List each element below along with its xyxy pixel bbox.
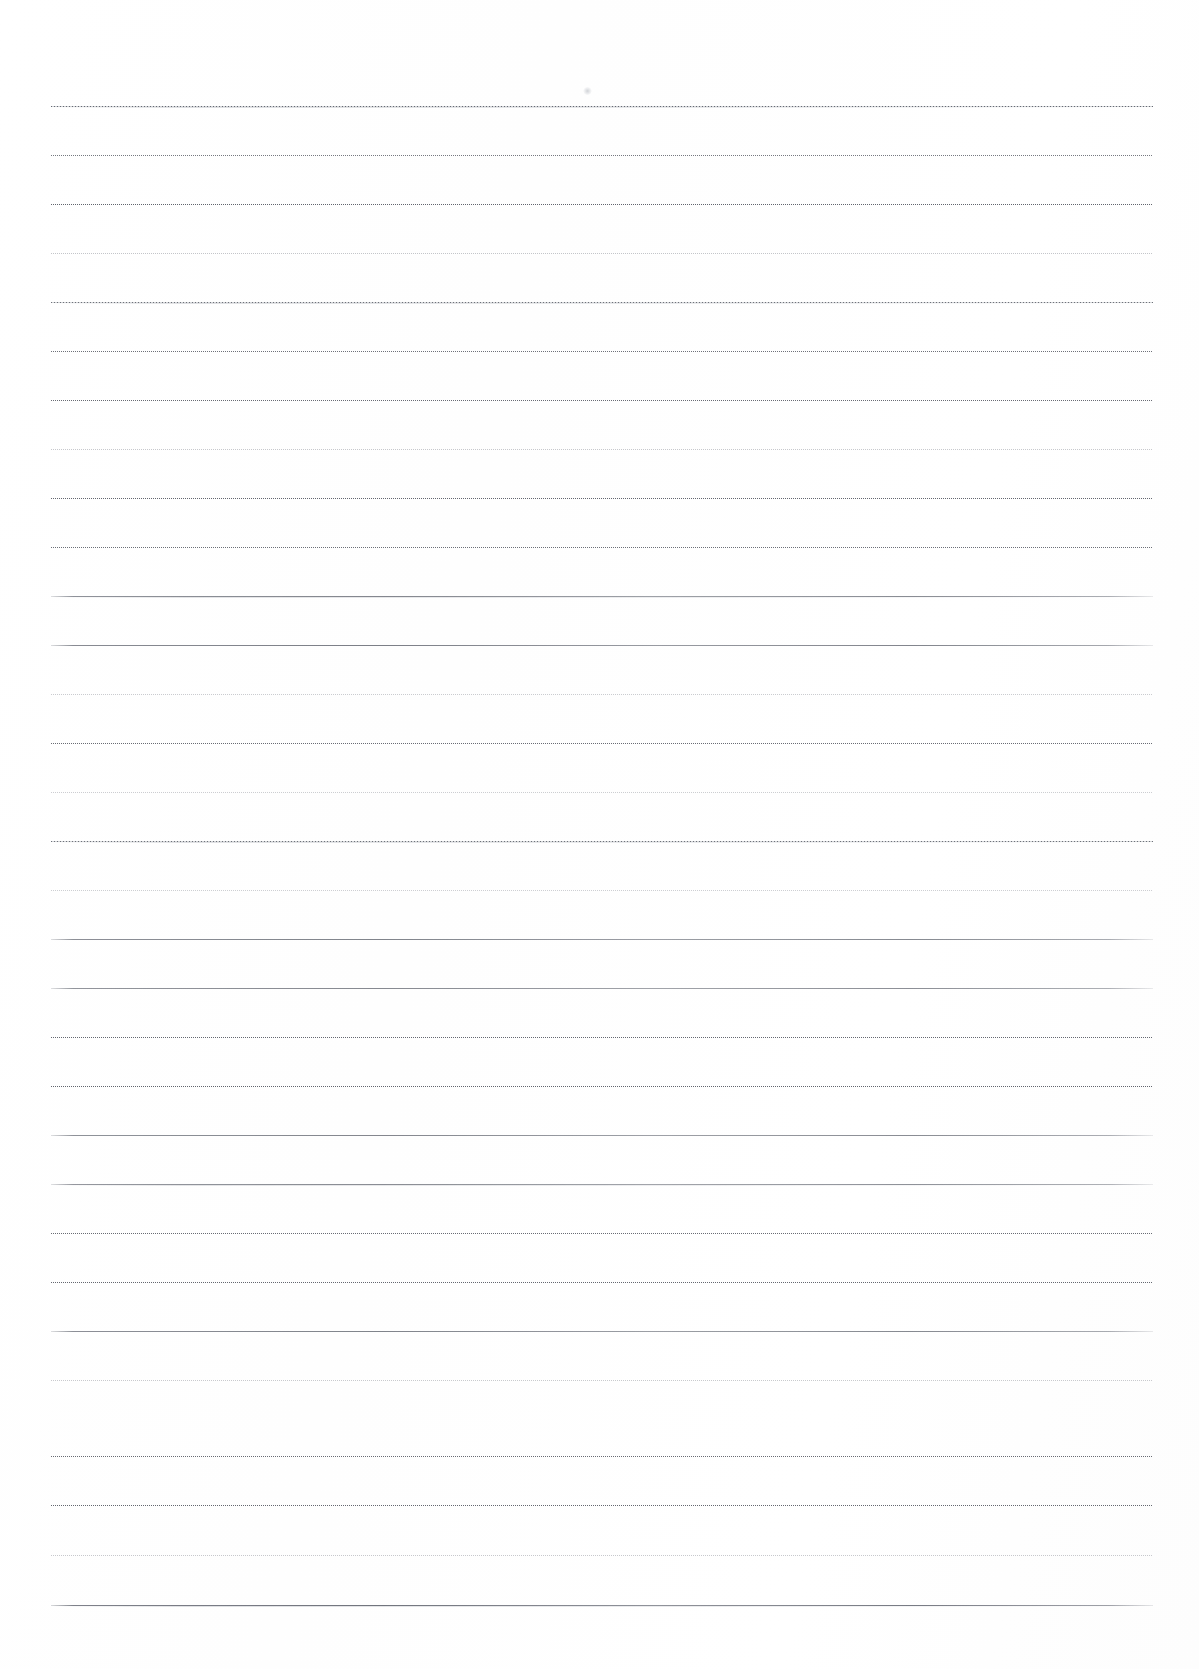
- scanned-page: [0, 0, 1199, 1669]
- ruled-line-ghost: [51, 1606, 1153, 1607]
- handwriting-text-layer: [51, 106, 1153, 1606]
- dust-speck-icon: [583, 87, 592, 95]
